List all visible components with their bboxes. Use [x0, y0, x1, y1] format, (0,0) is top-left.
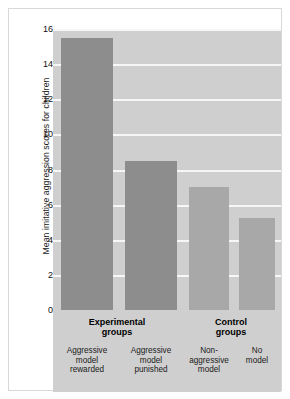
category-label-4-line1: No [231, 346, 283, 356]
plot-area [53, 29, 281, 310]
category-label-3: Non-aggressivemodel [181, 346, 237, 375]
group-title-line2: groups [181, 327, 281, 337]
bar-1 [61, 38, 113, 310]
y-tick-label-16: 16 [29, 25, 53, 34]
category-label-1: Aggressivemodelrewarded [53, 346, 121, 375]
category-label-4-line2: model [231, 356, 283, 366]
group-title-2: Controlgroups [181, 317, 281, 337]
group-title-line2: groups [53, 327, 181, 337]
y-tick-label-14: 14 [29, 60, 53, 69]
category-label-1-line1: Aggressive [53, 346, 121, 356]
gridline-16 [53, 29, 281, 31]
category-label-2: Aggressivemodelpunished [117, 346, 185, 375]
category-label-3-line3: model [181, 365, 237, 375]
group-title-1: Experimentalgroups [53, 317, 181, 337]
category-label-2-line2: model [117, 356, 185, 366]
y-tick-label-2: 2 [29, 270, 53, 279]
y-tick-label-6: 6 [29, 200, 53, 209]
y-tick-label-0: 0 [29, 306, 53, 315]
y-tick-label-10: 10 [29, 130, 53, 139]
y-tick-label-4: 4 [29, 235, 53, 244]
group-title-line1: Control [181, 317, 281, 327]
category-label-3-line2: aggressive [181, 356, 237, 366]
y-axis-tick-labels: 1614121086420 [29, 29, 53, 310]
y-tick-label-8: 8 [29, 165, 53, 174]
bar-4 [239, 218, 275, 310]
y-tick-label-12: 12 [29, 95, 53, 104]
group-title-line1: Experimental [53, 317, 181, 327]
category-label-4: Nomodel [231, 346, 283, 365]
bar-chart-figure: Mean imitative aggression scores for chi… [0, 0, 290, 399]
category-label-1-line3: rewarded [53, 365, 121, 375]
bar-2 [125, 161, 177, 310]
bar-3 [189, 187, 229, 310]
category-label-3-line1: Non- [181, 346, 237, 356]
category-label-2-line3: punished [117, 365, 185, 375]
chart-panel: Mean imitative aggression scores for chi… [8, 8, 282, 391]
category-label-band: ExperimentalgroupsControlgroupsAggressiv… [53, 310, 281, 392]
category-label-2-line1: Aggressive [117, 346, 185, 356]
category-label-1-line2: model [53, 356, 121, 366]
